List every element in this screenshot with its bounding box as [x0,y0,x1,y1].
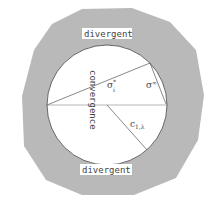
diagram-canvas: divergent divergent convergence σ * i σ … [0,0,214,200]
svg-text:1,λ: 1,λ [135,123,145,130]
divergent-label-bottom: divergent [82,165,131,175]
convergence-label: convergence [88,70,98,130]
divergent-label-top: divergent [84,29,133,39]
svg-text:i: i [113,86,115,93]
svg-text:*: * [113,78,116,85]
svg-text:∞: ∞ [152,79,157,86]
